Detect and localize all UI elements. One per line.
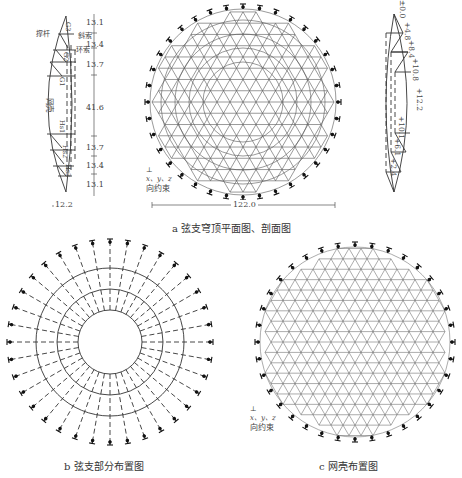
caption-panel-b: b 弦支部分布置图 <box>64 458 144 473</box>
constraint-note-a: ⊥ x、y、z 向约束 <box>146 166 172 193</box>
member-label-hs1: Hs1 <box>58 120 66 133</box>
elevation-10-1: +10.1 <box>397 116 406 139</box>
dim-41-6: 41.6 <box>86 103 104 112</box>
elevation-10-8: +10.8 <box>411 58 420 81</box>
diagonal-cable-label: 斜索 <box>78 30 92 40</box>
member-label-g3: G3 <box>64 22 72 31</box>
member-label-hs3: Hs3 <box>64 164 72 177</box>
elevation-4-8: +4.8 <box>403 22 412 40</box>
elevation-6-1: +6.1 <box>393 138 402 156</box>
net-shell-layout-drawing <box>255 242 455 442</box>
dim-13-4-bottom: 13.4 <box>86 161 104 170</box>
constraint-text: 向约束 <box>250 423 276 432</box>
member-label-g1: G1 <box>58 77 66 86</box>
constraint-axes: x、y、z <box>250 414 276 423</box>
constraint-note-c: ⊥ x、y、z 向约束 <box>250 405 276 432</box>
member-label-g2: G2 <box>62 52 70 61</box>
span-dimension-label: 122.0 <box>231 200 258 209</box>
dim-13-1-top: 13.1 <box>86 18 104 27</box>
caption-panel-c: c 网壳布置图 <box>319 458 378 473</box>
support-icon: ⊥ <box>146 166 172 175</box>
member-label-hs2: Hs2 <box>61 145 69 158</box>
dim-13-4-top: 13.4 <box>86 40 104 49</box>
elevation-8-4: +8.4 <box>407 40 416 58</box>
elevation-2-4: +2.4 <box>389 158 398 176</box>
constraint-axes: x、y、z <box>146 175 172 184</box>
elevation-12-2: +12.2 <box>415 88 424 111</box>
strut-label: 撑杆 <box>36 28 50 38</box>
caption-panel-a: a 弦支穹顶平面图、剖面图 <box>172 220 291 235</box>
elevation-0: ±0.0 <box>398 0 407 18</box>
shell-label: 网壳 <box>45 98 56 112</box>
dim-13-7-top: 13.7 <box>86 60 104 69</box>
constraint-text: 向约束 <box>146 184 172 193</box>
dim-13-1-bottom: 13.1 <box>86 180 104 189</box>
support-icon: ⊥ <box>250 405 276 414</box>
cable-dome-layout-drawing <box>7 239 213 445</box>
figure-canvas <box>0 0 462 478</box>
dim-13-7-bottom: 13.7 <box>86 143 104 152</box>
dome-plan-drawing <box>145 4 341 200</box>
section-width-dim: 12.2 <box>54 200 74 209</box>
